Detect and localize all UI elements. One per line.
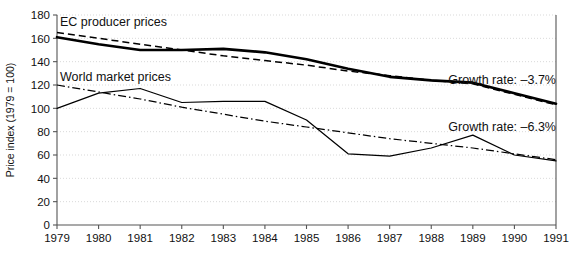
x-tick-label: 1989	[460, 232, 486, 244]
x-tick-label: 1984	[252, 232, 278, 244]
x-tick-label: 1988	[418, 232, 444, 244]
x-tick-label: 1987	[377, 232, 403, 244]
y-tick-label: 60	[37, 149, 50, 161]
x-tick-label: 1980	[86, 232, 112, 244]
x-tick-label: 1986	[335, 232, 361, 244]
y-tick-label: 40	[37, 173, 50, 185]
chart-container: 020406080100120140160180 197919801981198…	[0, 0, 573, 260]
x-tick-label: 1979	[44, 232, 70, 244]
x-tick-label: 1983	[211, 232, 237, 244]
y-tick-label: 180	[31, 9, 50, 21]
x-tick-label: 1982	[169, 232, 195, 244]
x-tick-label: 1990	[502, 232, 528, 244]
y-tick-label: 140	[31, 56, 50, 68]
y-tick-label: 0	[44, 219, 50, 231]
annotation-growth-rate-world: Growth rate: –6.3%	[448, 120, 556, 134]
x-tick-label: 1981	[127, 232, 153, 244]
y-tick-label: 20	[37, 196, 50, 208]
y-tick-label: 120	[31, 79, 50, 91]
y-tick-label: 160	[31, 33, 50, 45]
y-tick-label: 100	[31, 103, 50, 115]
x-tick-label: 1985	[294, 232, 320, 244]
annotation-world-market-prices: World market prices	[60, 70, 171, 84]
y-axis-title: Price index (1979 = 100)	[4, 63, 16, 178]
annotation-ec-producer-prices: EC producer prices	[60, 15, 167, 29]
annotation-growth-rate-ec: Growth rate: –3.7%	[448, 73, 556, 87]
y-tick-label: 80	[37, 126, 50, 138]
price-index-line-chart: 020406080100120140160180 197919801981198…	[0, 0, 573, 260]
x-tick-label: 1991	[543, 232, 569, 244]
